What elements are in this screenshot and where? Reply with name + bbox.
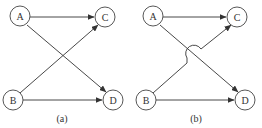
- edge-b-to-c-with-jump: [153, 25, 231, 93]
- svg-text:A: A: [16, 11, 24, 22]
- node-b: B: [136, 90, 156, 110]
- node-c: C: [227, 7, 247, 27]
- edge-b-to-c: [20, 25, 98, 93]
- edge-a-to-d: [27, 25, 106, 92]
- svg-text:C: C: [234, 12, 241, 23]
- panel-b: A C B D (b): [136, 6, 255, 125]
- edge-a-to-d: [160, 25, 238, 92]
- node-d: D: [103, 90, 123, 110]
- node-c: C: [95, 7, 115, 27]
- caption-a: (a): [56, 113, 67, 125]
- node-a: A: [10, 6, 30, 26]
- svg-text:A: A: [149, 11, 157, 22]
- node-b: B: [3, 90, 23, 110]
- diagram-canvas: A C B D (a) A C B: [0, 0, 262, 128]
- svg-text:B: B: [143, 95, 150, 106]
- caption-b: (b): [190, 113, 202, 125]
- svg-text:D: D: [241, 95, 248, 106]
- svg-text:C: C: [102, 12, 109, 23]
- panel-a: A C B D (a): [3, 6, 123, 125]
- svg-text:B: B: [10, 95, 17, 106]
- svg-text:D: D: [109, 95, 116, 106]
- node-a: A: [143, 6, 163, 26]
- node-d: D: [235, 90, 255, 110]
